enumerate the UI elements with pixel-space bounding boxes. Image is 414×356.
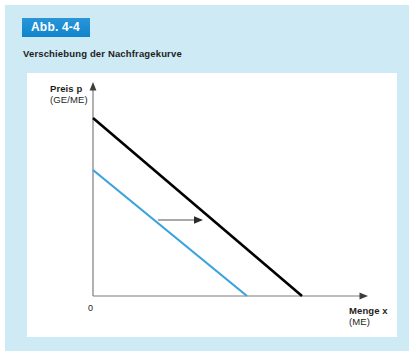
x-axis-title: Menge x [349,305,388,316]
figure-container: Abb. 4-4 Verschiebung der Nachfragekurve [0,0,414,356]
y-axis-label: Preis p (GE/ME) [50,83,88,105]
origin-tick-label: 0 [88,303,93,314]
y-axis-title: Preis p [50,83,88,94]
shift-arrow-icon [158,216,203,224]
demand-curve-original [93,170,247,296]
x-axis [93,293,368,300]
figure-number-badge: Abb. 4-4 [22,18,90,37]
shift-arrow-head [194,216,203,224]
x-axis-arrowhead-icon [360,293,369,300]
y-axis [90,82,97,296]
figure-frame: Abb. 4-4 Verschiebung der Nachfragekurve [5,5,409,351]
y-axis-arrowhead-icon [90,82,97,91]
demand-curve-new [93,118,302,296]
demand-curve-chart [27,73,397,337]
y-axis-unit: (GE/ME) [50,94,88,105]
plot-panel: Preis p (GE/ME) Menge x (ME) 0 [27,73,397,337]
figure-caption: Verschiebung der Nachfragekurve [23,48,182,59]
x-axis-label: Menge x (ME) [349,305,388,327]
x-axis-unit: (ME) [349,316,388,327]
